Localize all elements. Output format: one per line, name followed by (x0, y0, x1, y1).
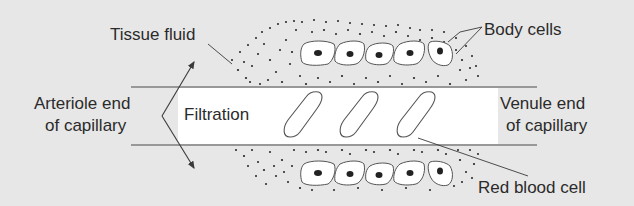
leader-body-cells-2 (456, 27, 482, 54)
label-arteriole-end-line2: of capillary (45, 116, 126, 136)
body-cell (428, 161, 452, 185)
body-cell (301, 161, 335, 185)
body-cell (335, 41, 365, 65)
label-venule-end-line1: Venule end (500, 94, 585, 114)
capillary-diagram: Tissue fluid Body cells Arteriole end of… (0, 0, 634, 206)
label-tissue-fluid: Tissue fluid (110, 25, 195, 45)
label-body-cells: Body cells (484, 20, 561, 40)
body-cell (366, 163, 394, 185)
leader-body-cells (448, 27, 482, 42)
body-cell (394, 161, 425, 185)
body-cell (335, 161, 365, 185)
body-cell (428, 41, 452, 65)
label-red-blood-cell: Red blood cell (478, 178, 586, 198)
body-cells-bottom (301, 161, 453, 186)
body-cell (394, 41, 425, 65)
body-cell (301, 41, 335, 65)
leader-tissue-fluid (208, 44, 232, 64)
label-filtration: Filtration (184, 105, 249, 125)
body-cells-top (301, 41, 453, 66)
label-arteriole-end-line1: Arteriole end (34, 94, 130, 114)
body-cell (366, 43, 394, 65)
label-venule-end-line2: of capillary (506, 116, 587, 136)
